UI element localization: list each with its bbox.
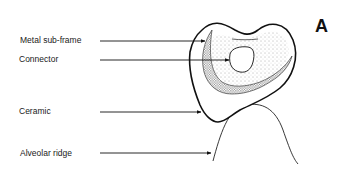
connector-label: Connector: [19, 55, 58, 64]
ceramic-label: Ceramic: [19, 107, 51, 116]
connector-opening: [230, 47, 254, 72]
alveolar-ridge-label: Alveolar ridge: [20, 149, 72, 158]
metal-sub-frame-label: Metal sub-frame: [20, 36, 81, 45]
panel-label: A: [315, 17, 328, 35]
